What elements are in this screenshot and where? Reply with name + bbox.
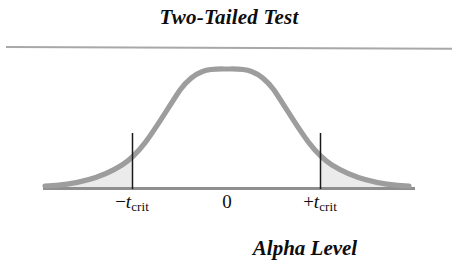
x-axis-caption: Alpha Level: [190, 236, 420, 261]
tick-right-subscript: crit: [319, 199, 337, 214]
tick-left-subscript: crit: [131, 199, 149, 214]
chart-title: Two-Tailed Test: [0, 5, 458, 30]
title-divider-rule: [6, 46, 452, 50]
two-tailed-test-figure: Two-Tailed Test −tcrit 0 +tcrit Alpha Le…: [0, 0, 458, 268]
tick-label-positive-t-crit: +tcrit: [270, 191, 370, 213]
minus-sign-icon: −: [115, 191, 126, 212]
distribution-plot-svg: [0, 55, 458, 197]
tick-zero-value: 0: [222, 191, 232, 212]
plus-sign-icon: +: [303, 191, 314, 212]
tick-label-negative-t-crit: −tcrit: [82, 191, 182, 213]
tick-label-zero: 0: [177, 191, 277, 213]
plot-area: [0, 55, 458, 197]
bell-curve: [45, 69, 409, 186]
